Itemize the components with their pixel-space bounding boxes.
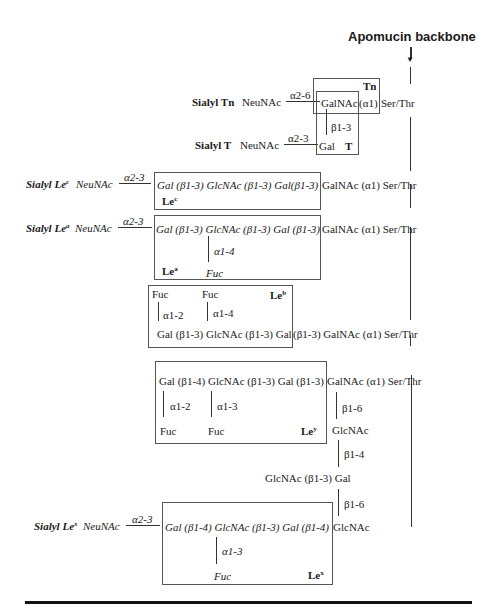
lec-box-label: Lec <box>162 195 177 207</box>
bond-line <box>284 144 318 145</box>
linkage: α2-3 <box>132 513 152 525</box>
tail: GalNAc (α1) Ser/Thr <box>327 375 421 387</box>
branch-line <box>211 391 212 417</box>
branch-label: α1-4 <box>214 245 234 257</box>
t-box-label: T <box>345 140 352 152</box>
linkage: α2-3 <box>123 215 143 227</box>
branch-line <box>216 537 217 564</box>
backbone-line <box>410 67 411 84</box>
gal: Gal <box>319 140 335 152</box>
neunac: NeuNAc <box>242 96 281 108</box>
branch-label: α1-3 <box>217 400 237 412</box>
sialyl-lea-label: Sialyl Lea <box>26 222 70 234</box>
sialyl-t-label: Sialyl T <box>195 139 231 151</box>
tail: (β1-3) GalNAc (α1) Ser/Thr <box>293 328 418 340</box>
bond-line <box>119 183 151 184</box>
linkage: α2-3 <box>124 171 144 183</box>
ley-box-label: Ley <box>301 425 317 437</box>
lex-box-label: Lex <box>308 569 324 581</box>
fuc: Fuc <box>160 425 177 437</box>
lec-box <box>154 172 321 210</box>
branch-line <box>326 109 327 135</box>
branch-label: β1-3 <box>331 121 351 133</box>
fuc: Fuc <box>206 267 223 279</box>
tn-box-label: Tn <box>363 80 376 92</box>
branch-line <box>163 391 164 417</box>
chain: Gal (β1-3) GlcNAc (β1-3) Gal <box>157 328 292 340</box>
branch-line <box>207 302 208 321</box>
neunac: NeuNAc <box>76 178 113 190</box>
arrow-down-icon: ▼ <box>406 54 414 66</box>
branch-line <box>336 392 337 419</box>
branch-label: α1-3 <box>222 545 242 557</box>
glcnac-gal: GlcNAc (β1-3) Gal <box>265 472 351 484</box>
branch-line <box>338 440 339 467</box>
linkage: α2-3 <box>288 132 308 144</box>
bond-line <box>118 227 152 228</box>
lea-box-label: Lea <box>162 265 178 277</box>
neunac: NeuNAc <box>83 520 120 532</box>
branch-label: β1-6 <box>342 402 362 414</box>
glcnac: GlcNAc <box>332 424 369 436</box>
chain: Gal (β1-4) GlcNAc (β1-3) Gal (β1-3) <box>159 375 324 387</box>
tail: GalNAc (α1) Ser/Thr <box>322 223 416 235</box>
sialyl-lex-label: Sialyl Lex <box>34 520 78 532</box>
backbone-line <box>411 375 412 527</box>
linkage: α2-6 <box>290 89 310 101</box>
apomucin-backbone-title: Apomucin backbone <box>348 31 476 43</box>
branch-label: α1-2 <box>163 309 183 321</box>
branch-line <box>208 236 209 262</box>
branch-label: β1-6 <box>344 498 364 510</box>
fuc: Fuc <box>208 425 225 437</box>
fuc: Fuc <box>214 570 231 582</box>
neunac: NeuNAc <box>75 222 112 234</box>
bond-line <box>126 525 160 526</box>
neunac: NeuNAc <box>240 139 279 151</box>
chain: Gal (β1-4) GlcNAc (β1-3) Gal (β1-4) <box>165 521 329 533</box>
branch-label: α1-4 <box>213 307 233 319</box>
bottom-rule <box>25 601 472 604</box>
fuc: Fuc <box>202 288 219 300</box>
backbone-line <box>410 227 411 320</box>
branch-label: α1-2 <box>170 400 190 412</box>
branch-line <box>338 489 339 516</box>
tail: GalNAc (α1) Ser/Thr <box>322 179 416 191</box>
chain: Gal (β1-3) GlcNAc (β1-3) Gal(β1-3) <box>157 179 318 191</box>
fuc: Fuc <box>152 288 169 300</box>
ser-thr: Ser/Thr <box>381 97 415 109</box>
branch-label: β1-4 <box>344 448 364 460</box>
mucin-glycan-diagram: Apomucin backbone ▼ Sialyl Tn NeuNAc α2-… <box>0 0 492 611</box>
sialyl-lec-label: Sialyl Lec <box>26 178 69 190</box>
chain: Gal (β1-3) GlcNAc (β1-3) Gal (β1-3) <box>156 223 320 235</box>
backbone-line <box>410 117 411 171</box>
tail: GlcNAc <box>333 521 370 533</box>
leb-box-label: Leb <box>270 289 286 301</box>
sialyl-tn-label: Sialyl Tn <box>192 96 234 108</box>
branch-line <box>158 302 159 321</box>
